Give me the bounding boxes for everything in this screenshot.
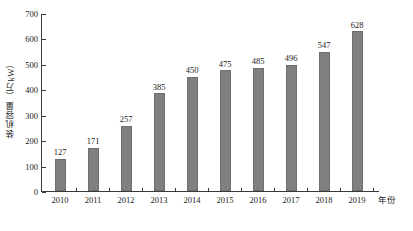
x-tick-mark (175, 188, 176, 192)
x-tick-label: 2012 (108, 196, 144, 205)
bar-group[interactable] (80, 148, 106, 191)
y-tick-label: 200 (14, 137, 38, 146)
y-tick-mark (42, 141, 46, 142)
x-tick-label: 2017 (273, 196, 309, 205)
x-tick-mark (274, 188, 275, 192)
y-tick-label: 300 (14, 111, 38, 120)
y-tick-mark (42, 39, 46, 40)
x-tick-mark (340, 188, 341, 192)
bar-value-label: 496 (278, 54, 304, 63)
bar-group[interactable] (344, 31, 370, 191)
y-tick-label: 0 (14, 188, 38, 197)
bar-value-label: 628 (344, 21, 370, 30)
bar[interactable] (154, 93, 165, 191)
y-tick-label: 700 (14, 10, 38, 19)
bar[interactable] (55, 159, 66, 191)
x-tick-label: 2019 (339, 196, 375, 205)
bar[interactable] (286, 65, 297, 191)
bar-value-label: 547 (311, 41, 337, 50)
x-axis-title: 年份 (378, 196, 396, 205)
bar[interactable] (220, 70, 231, 191)
y-tick-mark (42, 116, 46, 117)
bar[interactable] (319, 52, 330, 191)
x-tick-mark (109, 188, 110, 192)
x-tick-mark (307, 188, 308, 192)
x-axis-tick-labels: 2010201120122013201420152016201720182019 (41, 196, 381, 212)
x-tick-label: 2010 (42, 196, 78, 205)
y-tick-label: 100 (14, 162, 38, 171)
bar-group[interactable] (113, 126, 139, 191)
y-tick-mark (42, 90, 46, 91)
x-tick-label: 2013 (141, 196, 177, 205)
bar[interactable] (253, 68, 264, 191)
x-tick-label: 2015 (207, 196, 243, 205)
bar-value-label: 171 (80, 137, 106, 146)
x-tick-label: 2018 (306, 196, 342, 205)
y-tick-mark (42, 14, 46, 15)
x-tick-mark (241, 188, 242, 192)
x-tick-mark (142, 188, 143, 192)
bar[interactable] (121, 126, 132, 191)
x-tick-label: 2014 (174, 196, 210, 205)
bar[interactable] (187, 77, 198, 191)
x-tick-mark (76, 188, 77, 192)
bar-group[interactable] (278, 65, 304, 191)
bar-value-label: 450 (179, 66, 205, 75)
y-axis-line (41, 14, 42, 192)
y-tick-mark (42, 167, 46, 168)
y-tick-label: 500 (14, 61, 38, 70)
bar-group[interactable] (311, 52, 337, 191)
x-tick-label: 2016 (240, 196, 276, 205)
bar-group[interactable] (179, 77, 205, 191)
x-axis-line (41, 191, 379, 192)
bar-value-label: 485 (245, 57, 271, 66)
y-tick-mark (42, 65, 46, 66)
x-tick-label: 2011 (75, 196, 111, 205)
x-tick-mark (373, 188, 374, 192)
bar-value-label: 127 (47, 148, 73, 157)
bar-value-label: 385 (146, 83, 172, 92)
bar[interactable] (88, 148, 99, 191)
bar-value-label: 475 (212, 60, 238, 69)
plot-area: 127171257385450475485496547628 (41, 14, 371, 192)
bar[interactable] (352, 31, 363, 191)
bar-group[interactable] (212, 70, 238, 191)
bar-chart-figure: 装机容量（万kW） 0100200300400500600700 1271712… (0, 0, 413, 231)
y-axis-tick-labels: 0100200300400500600700 (12, 0, 38, 196)
bar-group[interactable] (146, 93, 172, 191)
bar-group[interactable] (245, 68, 271, 191)
bar-value-label: 257 (113, 115, 139, 124)
y-tick-mark (42, 192, 46, 193)
y-tick-label: 400 (14, 86, 38, 95)
y-tick-label: 600 (14, 35, 38, 44)
bar-group[interactable] (47, 159, 73, 191)
x-tick-mark (208, 188, 209, 192)
